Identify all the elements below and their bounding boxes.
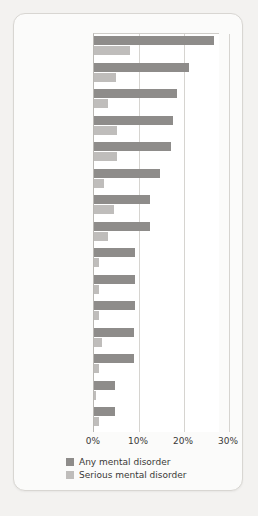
bar-group: Netherlands [94,169,225,196]
bar-any [94,248,135,257]
bar-serious [94,205,114,214]
x-axis-tick: 30% [218,436,238,446]
bar-any [94,381,115,390]
bar-serious [94,391,96,400]
bar-group: Spain [94,248,225,275]
bar-serious [94,338,102,347]
bar-any [94,116,173,125]
bar-serious [94,126,117,135]
bar-group: United States [94,36,225,63]
legend-item: Serious mental disorder [66,470,236,480]
legend-swatch [66,471,74,479]
bar-group: Italy [94,354,225,381]
bar-group: Germany [94,275,225,302]
bar-serious [94,285,99,294]
bar-serious [94,179,104,188]
legend-label: Serious mental disorder [79,470,187,480]
bar-any [94,301,135,310]
plot-area: United StatesUkraineFranceColombiaLebano… [93,33,219,432]
bar-serious [94,258,99,267]
bar-group: Mexico [94,195,225,222]
bar-any [94,328,134,337]
bar-any [94,63,189,72]
bar-group: Beijing [94,301,225,328]
bar-group: Shanghai [94,407,225,434]
bar-any [94,407,115,416]
bar-any [94,169,160,178]
bar-group: Belgium [94,222,225,249]
x-axis: 0%10%20%30% [93,433,218,449]
legend-label: Any mental disorder [79,457,170,467]
bar-group: Nigeria [94,381,225,408]
bar-serious [94,152,117,161]
bar-serious [94,46,130,55]
bar-group: Lebanon [94,142,225,169]
bar-serious [94,311,99,320]
bar-any [94,354,134,363]
chart-card: United StatesUkraineFranceColombiaLebano… [13,13,243,491]
bar-any [94,195,150,204]
x-axis-tick: 10% [128,436,148,446]
bar-any [94,36,214,45]
bar-any [94,275,135,284]
chart-legend: Any mental disorderSerious mental disord… [66,457,236,483]
bar-any [94,89,177,98]
bar-group: Japan [94,328,225,355]
bar-group: Colombia [94,116,225,143]
legend-swatch [66,458,74,466]
bar-serious [94,364,99,373]
bar-serious [94,232,108,241]
bar-any [94,222,150,231]
bar-any [94,142,171,151]
x-axis-tick: 0% [86,436,100,446]
gridline-30 [229,34,230,432]
bar-serious [94,417,99,426]
x-axis-tick: 20% [173,436,193,446]
bar-group: France [94,89,225,116]
bar-serious [94,73,116,82]
legend-item: Any mental disorder [66,457,236,467]
bar-group: Ukraine [94,63,225,90]
bar-serious [94,99,108,108]
